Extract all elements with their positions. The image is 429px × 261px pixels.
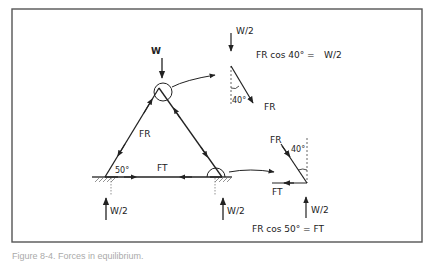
ground-hatch-right bbox=[215, 178, 231, 196]
support-angle-label: 40° bbox=[291, 145, 305, 154]
leader-arrow-support bbox=[229, 170, 274, 172]
ground-hatch-left bbox=[95, 178, 115, 196]
support-reaction-label: W/2 bbox=[311, 205, 329, 215]
figure-caption: Figure 8-4. Forces in equilibrium. bbox=[12, 251, 144, 261]
arrow-right-rafter-down bbox=[201, 147, 206, 155]
reaction-left-label: W/2 bbox=[110, 206, 128, 216]
load-w-label: W bbox=[151, 46, 161, 56]
apex-detail: W/2 40° FR FR cos 40° = W/2 bbox=[231, 26, 342, 112]
tie-label: FT bbox=[157, 163, 168, 173]
support-rafter-label: FR bbox=[270, 135, 281, 145]
rafter-label: FR bbox=[139, 129, 150, 139]
leader-arrow-apex bbox=[172, 75, 215, 87]
apex-force-label: FR bbox=[264, 102, 275, 112]
apex-equation-lhs: FR cos 40° = bbox=[256, 50, 315, 60]
right-rafter bbox=[159, 88, 222, 177]
truss-force-diagram: W FR FT 50° W/2 W/2 W/2 40° FR FR cos 40… bbox=[0, 0, 429, 261]
support-detail: FR 40° FT W/2 FR cos 50° = FT bbox=[252, 135, 329, 234]
apex-load-label: W/2 bbox=[236, 26, 254, 36]
figure-frame bbox=[12, 9, 422, 242]
base-angle-label: 50° bbox=[115, 166, 129, 175]
arrow-left-rafter-up bbox=[144, 101, 151, 113]
arrow-right-rafter-up bbox=[175, 110, 180, 118]
apex-equation-rhs: W/2 bbox=[324, 50, 342, 60]
support-rafter-arrow bbox=[282, 146, 290, 157]
apex-angle-arc bbox=[231, 86, 239, 89]
apex-angle-label: 40° bbox=[232, 96, 246, 105]
support-angle-arc bbox=[298, 169, 307, 170]
arrow-left-rafter-down bbox=[119, 144, 125, 154]
support-equation: FR cos 50° = FT bbox=[252, 224, 325, 234]
reaction-right-label: W/2 bbox=[227, 206, 245, 216]
support-tie-label: FT bbox=[272, 187, 283, 197]
